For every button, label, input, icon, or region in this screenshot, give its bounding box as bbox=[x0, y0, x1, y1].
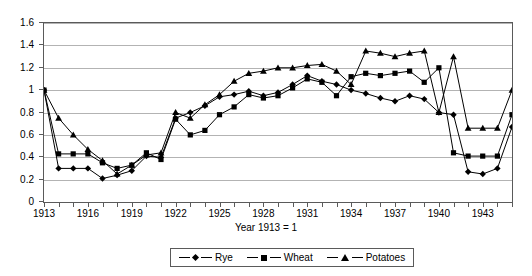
x-tick bbox=[497, 203, 498, 207]
x-tick bbox=[366, 203, 367, 207]
data-point-square bbox=[188, 132, 193, 137]
chart-legend: Rye Wheat Potatoes bbox=[170, 248, 414, 267]
data-point-square bbox=[202, 128, 207, 133]
data-point-square bbox=[378, 73, 383, 78]
x-tick bbox=[395, 203, 396, 207]
x-tick bbox=[220, 203, 221, 207]
x-tick bbox=[59, 203, 60, 207]
diamond-marker-icon bbox=[192, 254, 199, 261]
data-point-diamond bbox=[99, 175, 105, 181]
legend-line-rye-2 bbox=[201, 257, 212, 258]
data-point-diamond bbox=[465, 169, 471, 175]
x-tick-label: 1931 bbox=[287, 209, 327, 219]
legend-line-wheat-2 bbox=[270, 257, 281, 258]
legend-line-potatoes bbox=[327, 257, 338, 258]
data-point-diamond bbox=[363, 90, 369, 96]
data-point-square bbox=[305, 76, 310, 81]
x-tick bbox=[380, 203, 381, 207]
data-point-square bbox=[85, 151, 90, 156]
triangle-marker-icon bbox=[341, 254, 349, 261]
data-point-square bbox=[407, 69, 412, 74]
x-tick bbox=[176, 203, 177, 207]
x-tick bbox=[234, 203, 235, 207]
data-point-diamond bbox=[377, 95, 383, 101]
legend-item-wheat: Wheat bbox=[247, 252, 313, 263]
data-point-diamond bbox=[509, 124, 512, 130]
y-tick-label: 1.4 bbox=[0, 40, 34, 50]
data-point-square bbox=[71, 151, 76, 156]
legend-label-wheat: Wheat bbox=[284, 252, 313, 263]
x-tick-label: 1940 bbox=[419, 209, 459, 219]
data-point-diamond bbox=[480, 171, 486, 177]
x-tick bbox=[424, 203, 425, 207]
data-point-square bbox=[56, 151, 61, 156]
x-tick bbox=[263, 203, 264, 207]
x-tick bbox=[190, 203, 191, 207]
y-tick bbox=[39, 134, 43, 135]
data-point-square bbox=[334, 93, 339, 98]
x-tick bbox=[483, 203, 484, 207]
x-tick-label: 1937 bbox=[375, 209, 415, 219]
x-tick bbox=[132, 203, 133, 207]
x-tick bbox=[322, 203, 323, 207]
data-point-square bbox=[115, 166, 120, 171]
chart-container: 00.20.40.60.811.21.41.6 1913191619191922… bbox=[0, 0, 532, 276]
data-point-diamond bbox=[70, 165, 76, 171]
data-point-triangle bbox=[509, 87, 512, 93]
data-point-square bbox=[158, 157, 163, 162]
data-point-diamond bbox=[231, 91, 237, 97]
data-point-diamond bbox=[348, 87, 354, 93]
x-tick-label: 1934 bbox=[331, 209, 371, 219]
data-point-square bbox=[422, 80, 427, 85]
x-tick bbox=[454, 203, 455, 207]
data-point-square bbox=[349, 74, 354, 79]
x-tick-label: 1919 bbox=[112, 209, 152, 219]
y-tick bbox=[39, 89, 43, 90]
x-tick bbox=[410, 203, 411, 207]
y-tick bbox=[39, 156, 43, 157]
legend-line-potatoes-2 bbox=[352, 257, 363, 258]
series-line-wheat bbox=[44, 68, 512, 169]
data-point-square bbox=[232, 104, 237, 109]
x-tick bbox=[88, 203, 89, 207]
y-tick-label: 0.2 bbox=[0, 175, 34, 185]
legend-label-rye: Rye bbox=[215, 252, 233, 263]
data-point-square bbox=[319, 80, 324, 85]
x-tick-label: 1922 bbox=[156, 209, 196, 219]
data-point-diamond bbox=[392, 98, 398, 104]
y-tick-label: 0.8 bbox=[0, 108, 34, 118]
x-tick bbox=[293, 203, 294, 207]
data-point-diamond bbox=[494, 165, 500, 171]
data-point-triangle bbox=[450, 53, 457, 59]
x-tick bbox=[146, 203, 147, 207]
data-point-square bbox=[217, 112, 222, 117]
y-tick bbox=[39, 179, 43, 180]
data-point-triangle bbox=[231, 78, 238, 84]
data-point-square bbox=[436, 65, 441, 70]
y-tick-label: 1.2 bbox=[0, 63, 34, 73]
y-tick-label: 0 bbox=[0, 197, 34, 207]
y-tick-label: 1 bbox=[0, 85, 34, 95]
data-point-triangle bbox=[362, 48, 369, 54]
legend-item-rye: Rye bbox=[179, 252, 233, 263]
plot-area bbox=[43, 22, 513, 203]
data-point-square bbox=[509, 112, 512, 117]
data-point-diamond bbox=[55, 165, 61, 171]
data-point-triangle bbox=[55, 115, 62, 121]
data-point-square bbox=[363, 71, 368, 76]
x-tick bbox=[73, 203, 74, 207]
data-point-square bbox=[246, 92, 251, 97]
y-tick bbox=[39, 22, 43, 23]
y-tick-label: 0.6 bbox=[0, 130, 34, 140]
data-point-square bbox=[480, 154, 485, 159]
y-tick bbox=[39, 44, 43, 45]
x-tick bbox=[205, 203, 206, 207]
x-tick bbox=[337, 203, 338, 207]
data-point-triangle bbox=[333, 68, 340, 74]
data-point-diamond bbox=[450, 112, 456, 118]
x-tick bbox=[161, 203, 162, 207]
x-tick-label: 1913 bbox=[24, 209, 64, 219]
data-point-diamond bbox=[333, 81, 339, 87]
data-point-square bbox=[466, 154, 471, 159]
chart-svg bbox=[44, 23, 512, 202]
